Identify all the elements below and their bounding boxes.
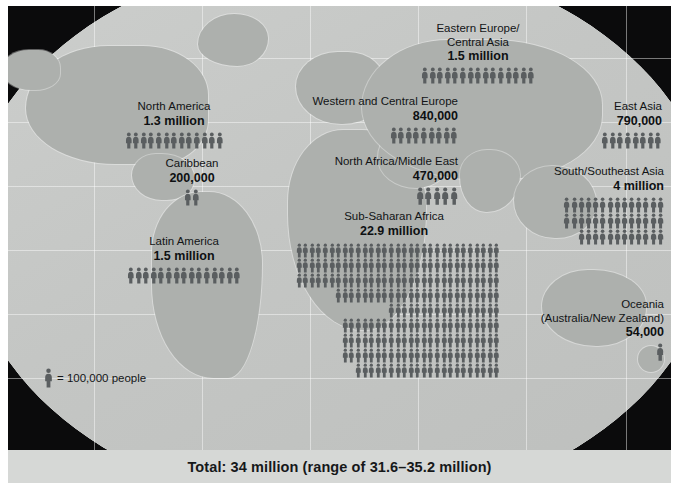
- person-figure-icon: [375, 288, 382, 303]
- person-figure-icon: [335, 258, 342, 273]
- person-figure-icon: [188, 267, 196, 284]
- person-figure-icon: [474, 258, 481, 273]
- region-value: 470,000: [296, 169, 458, 184]
- person-figure-icon: [381, 363, 388, 378]
- person-figure-icon: [434, 303, 441, 318]
- person-figure-icon: [421, 273, 428, 288]
- region-label: South/Southeast Asia: [508, 165, 664, 179]
- person-figure-icon: [628, 213, 635, 229]
- person-figure-icon: [401, 243, 408, 258]
- person-figure-icon: [650, 213, 657, 229]
- person-figure-icon: [474, 67, 482, 84]
- person-figure-icon: [216, 132, 224, 149]
- person-figure-icon: [454, 318, 461, 333]
- person-figure-icon: [434, 243, 441, 258]
- person-figure-icon: [193, 132, 201, 149]
- person-figure-icon: [342, 243, 349, 258]
- person-figure-icon: [375, 318, 382, 333]
- region-label: Caribbean: [134, 157, 250, 171]
- person-figure-icon: [395, 363, 402, 378]
- person-figure-icon: [173, 267, 181, 284]
- person-figure-icon: [427, 333, 434, 348]
- person-figure-icon: [362, 243, 369, 258]
- region-label: Sub-Saharan Africa: [288, 210, 500, 224]
- person-figure-icon: [414, 363, 421, 378]
- person-figure-icon: [44, 368, 53, 388]
- person-figure-icon: [388, 318, 395, 333]
- person-figure-icon: [467, 67, 475, 84]
- person-figure-icon: [362, 288, 369, 303]
- person-figure-icon: [412, 127, 420, 144]
- person-figure-icon: [609, 132, 617, 149]
- person-figure-icon: [480, 273, 487, 288]
- person-figure-icon: [474, 273, 481, 288]
- person-figure-icon: [450, 187, 458, 205]
- person-figure-icon: [571, 197, 578, 213]
- person-figure-icon: [487, 288, 494, 303]
- person-figure-icon: [467, 303, 474, 318]
- person-figure-icon: [421, 363, 428, 378]
- person-figure-icon: [375, 363, 382, 378]
- person-figure-icon: [355, 258, 362, 273]
- pictogram-group: [398, 67, 558, 84]
- person-figure-icon: [434, 288, 441, 303]
- person-figure-icon: [195, 267, 203, 284]
- person-figure-icon: [599, 213, 606, 229]
- person-figure-icon: [424, 187, 432, 205]
- region-north-america: North America 1.3 million: [94, 100, 254, 149]
- region-value: 840,000: [284, 109, 458, 124]
- person-figure-icon: [444, 67, 452, 84]
- person-figure-icon: [505, 67, 513, 84]
- pictogram-row: [335, 288, 500, 303]
- person-figure-icon: [348, 348, 355, 363]
- person-figure-icon: [368, 273, 375, 288]
- person-figure-icon: [395, 288, 402, 303]
- person-figure-icon: [512, 67, 520, 84]
- person-figure-icon: [355, 348, 362, 363]
- person-figure-icon: [467, 273, 474, 288]
- person-figure-icon: [520, 67, 528, 84]
- person-figure-icon: [315, 258, 322, 273]
- region-label: Latin America: [108, 235, 260, 249]
- person-figure-icon: [388, 303, 395, 318]
- person-figure-icon: [342, 288, 349, 303]
- person-figure-icon: [657, 197, 664, 213]
- person-figure-icon: [390, 127, 398, 144]
- person-figure-icon: [447, 303, 454, 318]
- person-figure-icon: [421, 318, 428, 333]
- person-figure-icon: [480, 333, 487, 348]
- person-figure-icon: [614, 213, 621, 229]
- person-figure-icon: [342, 258, 349, 273]
- person-figure-icon: [157, 267, 165, 284]
- person-figure-icon: [632, 132, 640, 149]
- person-figure-icon: [656, 343, 664, 361]
- person-figure-icon: [296, 258, 303, 273]
- person-figure-icon: [315, 243, 322, 258]
- person-figure-icon: [395, 273, 402, 288]
- person-figure-icon: [607, 229, 614, 245]
- person-figure-icon: [480, 243, 487, 258]
- person-figure-icon: [348, 288, 355, 303]
- pictogram-group: [540, 132, 662, 149]
- person-figure-icon: [489, 67, 497, 84]
- region-eastern-europe-central-asia: Eastern Europe/ Central Asia 1.5 million: [398, 22, 558, 84]
- pictogram-row: [296, 243, 500, 258]
- pictogram-row: [296, 273, 500, 288]
- person-figure-icon: [621, 229, 628, 245]
- pictogram-group: [516, 343, 664, 361]
- person-figure-icon: [467, 318, 474, 333]
- person-figure-icon: [650, 197, 657, 213]
- person-figure-icon: [362, 333, 369, 348]
- person-figure-icon: [226, 267, 234, 284]
- region-south-southeast-asia: South/Southeast Asia 4 million: [508, 165, 664, 245]
- region-value: 4 million: [508, 179, 664, 194]
- landmass-greenland: [198, 14, 268, 66]
- person-figure-icon: [135, 267, 143, 284]
- person-figure-icon: [443, 127, 451, 144]
- person-figure-icon: [414, 318, 421, 333]
- pictogram-row: [127, 267, 241, 284]
- person-figure-icon: [355, 318, 362, 333]
- person-figure-icon: [585, 229, 592, 245]
- person-figure-icon: [322, 273, 329, 288]
- person-figure-icon: [460, 288, 467, 303]
